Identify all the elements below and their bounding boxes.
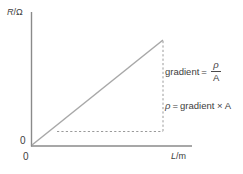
annotation-resistivity-equals: = <box>170 100 180 111</box>
annotation-gradient-fraction: ρ A <box>211 60 221 82</box>
annotation-gradient-formula: gradient = ρ A <box>165 60 221 82</box>
y-axis-label: R/Ω <box>7 8 23 17</box>
origin-zero-label-x: 0 <box>23 152 29 162</box>
annotation-resistivity-rhs: gradient × A <box>180 100 231 111</box>
annotation-gradient-equals: = <box>199 66 209 77</box>
annotation-resistivity-formula: ρ = gradient × A <box>165 100 231 111</box>
y-axis-unit-symbol: Ω <box>16 7 23 17</box>
x-axis-unit-symbol: m <box>179 151 187 161</box>
x-axis-label: L/m <box>171 152 186 161</box>
resistance-vs-length-graph-figure: R/Ω L/m 0 0 gradient = ρ A ρ = gradient … <box>0 0 243 174</box>
graph-canvas <box>0 0 243 174</box>
annotation-gradient-lhs: gradient <box>165 66 199 77</box>
annotation-gradient-denominator: A <box>211 72 221 83</box>
data-line-resistance-vs-length <box>32 40 163 145</box>
origin-zero-label-y: 0 <box>20 136 26 146</box>
annotation-gradient-numerator: ρ <box>211 60 220 71</box>
